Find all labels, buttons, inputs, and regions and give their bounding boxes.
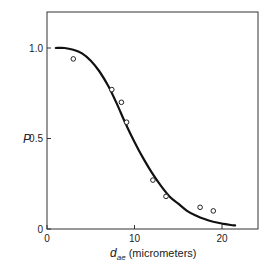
fitted-curve bbox=[56, 48, 235, 226]
data-points bbox=[71, 57, 216, 214]
data-point bbox=[124, 120, 129, 125]
x-tick-label: 10 bbox=[129, 233, 141, 244]
data-point bbox=[164, 194, 169, 199]
data-point bbox=[151, 178, 156, 183]
plot-frame bbox=[47, 12, 258, 229]
y-tick-label: 0.5 bbox=[29, 133, 43, 144]
data-point bbox=[110, 87, 115, 92]
y-tick-label: 1.0 bbox=[29, 43, 43, 54]
x-tick-label: 20 bbox=[216, 233, 228, 244]
x-axis-label: dae (micrometers) bbox=[110, 246, 196, 262]
chart: 00.51.0 01020 P dae (micrometers) bbox=[0, 0, 267, 271]
x-tick-label: 0 bbox=[44, 233, 50, 244]
data-point bbox=[119, 100, 124, 105]
y-axis-ticks: 00.51.0 bbox=[29, 43, 51, 235]
y-tick-label: 0 bbox=[37, 224, 43, 235]
data-point bbox=[211, 209, 216, 214]
y-axis-label: P bbox=[23, 132, 31, 146]
data-point bbox=[71, 57, 76, 62]
x-axis-ticks: 01020 bbox=[44, 225, 228, 244]
data-point bbox=[198, 205, 203, 210]
